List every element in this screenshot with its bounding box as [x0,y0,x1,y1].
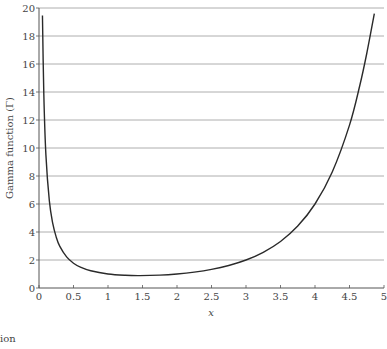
y-axis-ticks: 02468101214161820 [22,3,39,294]
gridlines [39,8,384,260]
y-tick-label: 10 [22,143,35,154]
y-tick-label: 16 [22,59,35,70]
y-tick-label: 14 [22,87,35,98]
x-tick-label: 0 [36,291,42,302]
x-tick-label: 2.5 [204,291,220,302]
x-tick-label: 4.5 [342,291,358,302]
y-tick-label: 6 [29,199,35,210]
x-tick-label: 2 [174,291,180,302]
x-tick-label: 5 [381,291,387,302]
x-tick-label: 4 [312,291,318,302]
x-tick-label: 0.5 [66,291,82,302]
x-axis-label: x [208,307,214,318]
y-tick-label: 2 [29,255,35,266]
caption-fragment: tion [0,333,16,344]
x-tick-label: 3 [243,291,249,302]
y-tick-label: 8 [29,171,35,182]
x-tick-label: 3.5 [273,291,289,302]
y-tick-label: 0 [29,283,35,294]
x-tick-label: 1.5 [135,291,151,302]
gamma-function-chart: 00.511.522.533.544.55 02468101214161820 … [0,0,387,349]
y-axis-label: Gamma function (Γ) [4,97,15,199]
gamma-curve [42,14,374,276]
x-tick-label: 1 [105,291,111,302]
y-tick-label: 20 [22,3,35,14]
y-tick-label: 12 [22,115,35,126]
y-tick-label: 18 [22,31,35,42]
y-tick-label: 4 [29,227,35,238]
